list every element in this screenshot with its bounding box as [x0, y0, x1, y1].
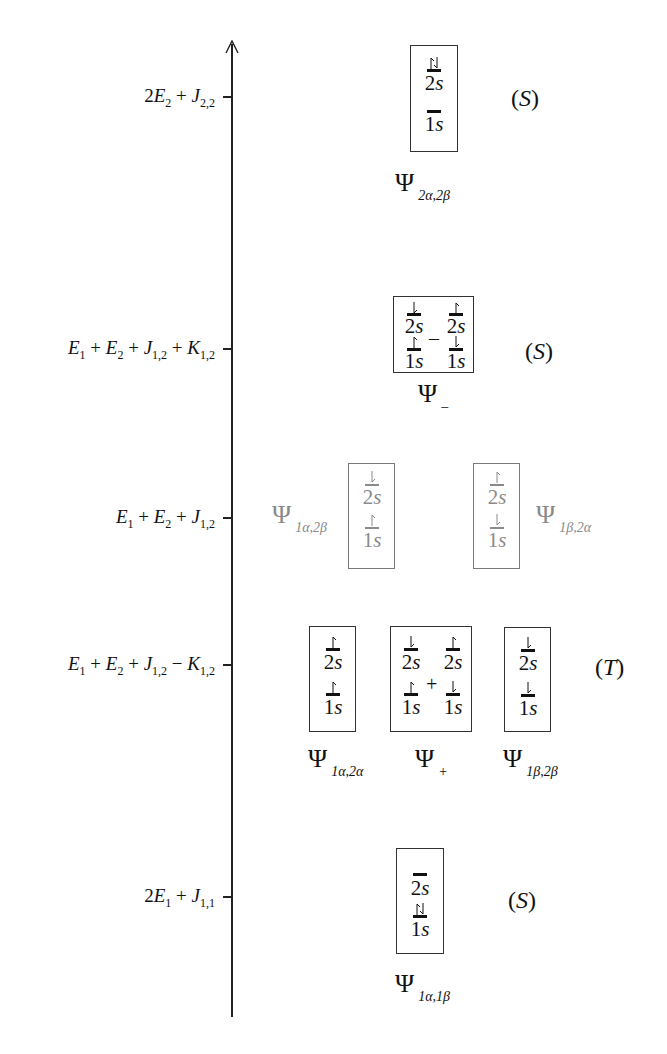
- state-label-1b2b: Ψ1β,2β: [503, 746, 558, 779]
- orbital-1s-label: 1s: [442, 351, 470, 372]
- spin-up-icon: [487, 470, 507, 484]
- energy-axis: [231, 44, 233, 1017]
- orbital-1s-label: 1s: [319, 697, 347, 718]
- spin-up-icon: [404, 335, 424, 349]
- orbital-2s-label: 2s: [439, 652, 467, 673]
- state-label-psi-plus: Ψ+: [415, 746, 448, 779]
- orbital-2s-label: 2s: [483, 487, 511, 508]
- spin-up-icon: [443, 635, 463, 649]
- state-label-1a2b: Ψ1α,2β: [272, 502, 327, 535]
- config-box-1b2a: 2s 1s: [473, 463, 520, 569]
- orbital-2s-label: 2s: [406, 878, 434, 899]
- spin-up-down-icon: [424, 56, 444, 70]
- config-box-2a2b: 2s 1s: [410, 45, 458, 152]
- state-label-2a2b: Ψ2α,2β: [395, 170, 450, 203]
- spin-down-icon: [401, 635, 421, 649]
- state-label-1a1b: Ψ1α,1β: [395, 971, 450, 1004]
- multiplicity-triplet: (T): [595, 655, 624, 679]
- config-box-1a1b: 2s 1s: [396, 848, 444, 954]
- minus-operator: –: [429, 328, 439, 348]
- energy-label-2e1: 2E1 + J1,1: [144, 886, 215, 909]
- orbital-2s-label: 2s: [319, 652, 347, 673]
- orbital-1s-label: 1s: [358, 530, 386, 551]
- orbital-2s-label: 2s: [397, 652, 425, 673]
- orbital-1s-label: 1s: [397, 697, 425, 718]
- axis-arrow-up-icon: [225, 40, 239, 54]
- spin-down-icon: [362, 470, 382, 484]
- config-box-psi-minus: 2s 1s – 2s 1s: [393, 296, 474, 373]
- multiplicity-singlet-bottom: (S): [508, 888, 536, 912]
- config-box-1a2a: 2s 1s: [309, 626, 356, 732]
- energy-label-triplet: E1 + E2 + J1,2 − K1,2: [68, 654, 215, 677]
- orbital-2s-label: 2s: [514, 653, 542, 674]
- tick-singlet-minus: [223, 348, 232, 350]
- state-label-1b2a: Ψ1β,2α: [536, 502, 591, 535]
- config-box-psi-plus: 2s 1s + 2s 1s: [390, 626, 472, 732]
- spin-down-icon: [518, 636, 538, 650]
- spin-down-icon: [443, 680, 463, 694]
- tick-2e1: [223, 896, 232, 898]
- spin-down-icon: [446, 335, 466, 349]
- energy-label-singlet-minus: E1 + E2 + J1,2 + K1,2: [68, 338, 215, 361]
- orbital-2s-label: 2s: [400, 316, 428, 337]
- config-box-1a2b: 2s 1s: [348, 463, 395, 569]
- orbital-1s-label: 1s: [439, 697, 467, 718]
- spin-down-icon: [518, 681, 538, 695]
- tick-triplet: [223, 664, 232, 666]
- spin-up-icon: [323, 680, 343, 694]
- orbital-1s-label: 1s: [514, 698, 542, 719]
- orbital-2s-label: 2s: [358, 487, 386, 508]
- state-label-1a2a: Ψ1α,2α: [308, 746, 363, 779]
- multiplicity-singlet-top: (S): [511, 86, 539, 110]
- tick-coulomb: [223, 517, 232, 519]
- energy-label-coulomb: E1 + E2 + J1,2: [116, 507, 215, 530]
- orbital-2s-label: 2s: [420, 73, 448, 94]
- config-box-1b2b: 2s 1s: [504, 627, 551, 732]
- multiplicity-singlet-middle: (S): [525, 339, 553, 363]
- state-label-psi-minus: Ψ–: [418, 381, 448, 414]
- spin-up-icon: [323, 635, 343, 649]
- orbital-2s-label: 2s: [442, 316, 470, 337]
- tick-2e2: [223, 96, 232, 98]
- energy-label-2e2: 2E2 + J2,2: [144, 86, 215, 109]
- spin-up-down-icon: [410, 902, 430, 916]
- spin-up-icon: [362, 513, 382, 527]
- orbital-1s-label: 1s: [483, 530, 511, 551]
- spin-up-icon: [401, 680, 421, 694]
- plus-operator: +: [426, 674, 437, 694]
- orbital-1s-label: 1s: [406, 919, 434, 940]
- orbital-1s-label: 1s: [420, 114, 448, 135]
- orbital-1s-label: 1s: [400, 351, 428, 372]
- spin-down-icon: [487, 513, 507, 527]
